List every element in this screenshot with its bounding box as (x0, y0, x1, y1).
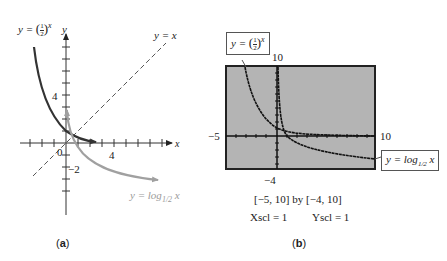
label-identity: y = x (154, 30, 177, 41)
x-axis-label: x (175, 139, 179, 149)
xscl-label: Xscl = 1 (250, 212, 287, 223)
xmax-label: 10 (380, 131, 391, 142)
label-exp: y = (12)x (18, 22, 52, 38)
tick-label-y-neg2: −2 (68, 164, 80, 175)
caption-b: (b) (292, 237, 306, 249)
ymax-label: 10 (272, 52, 283, 63)
origin-label: 0 (57, 147, 63, 158)
tick-label-y4: 4 (52, 91, 58, 102)
yscl-label: Yscl = 1 (312, 212, 349, 223)
window-range: [−5, 10] by [−4, 10] (254, 194, 342, 205)
panel-a-plot (20, 34, 172, 215)
xmin-label: −5 (208, 131, 220, 142)
caption-a: (a) (56, 237, 69, 249)
identity-line (33, 43, 166, 176)
y-axis-label: y (62, 24, 67, 35)
log-curve (67, 112, 158, 180)
tick-label-x4: 4 (109, 150, 115, 161)
ymin-label: −4 (264, 175, 276, 186)
label-log: y = log1/2 x (130, 190, 180, 204)
callout-exp: y = (12)x (226, 32, 270, 55)
callout-log: y = log1/2 x (381, 150, 439, 171)
calculator-screen (226, 60, 381, 169)
